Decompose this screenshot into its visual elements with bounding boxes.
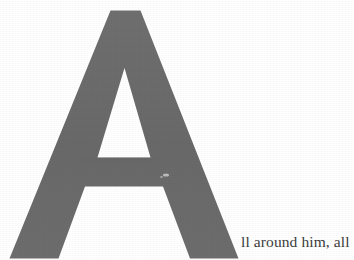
paragraph-continuation-text: ll around him, all <box>241 232 354 251</box>
scan-speck-icon <box>163 173 169 176</box>
dropcap-letter-a <box>0 0 246 260</box>
scanned-page: ll around him, all <box>0 0 354 260</box>
dropcap-a-glyph <box>0 0 246 260</box>
scan-speck-secondary-icon <box>160 176 163 178</box>
